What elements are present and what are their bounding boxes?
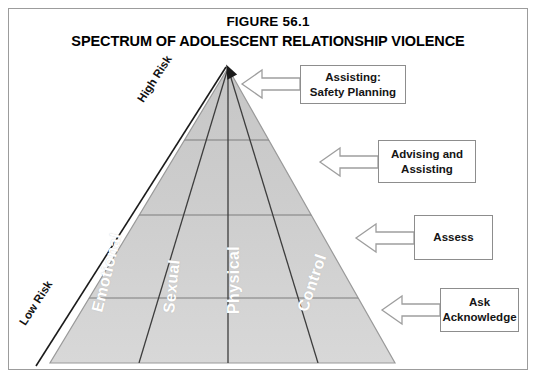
callout-advising-line1: Advising and — [391, 147, 463, 162]
callout-arrow-ask — [382, 296, 440, 324]
callout-advising-line2: Assisting — [391, 162, 463, 177]
callout-arrow-advising — [320, 148, 378, 176]
callout-arrow-assisting — [242, 70, 300, 98]
band-label-physical: Physical — [225, 246, 243, 314]
callout-ask-line1: Ask — [442, 295, 516, 310]
callout-box-assisting: Assisting: Safety Planning — [300, 65, 406, 104]
figure-container: FIGURE 56.1 SPECTRUM OF ADOLESCENT RELAT… — [0, 0, 538, 380]
callout-box-assess: Assess — [414, 215, 493, 260]
callout-assisting-line2: Safety Planning — [310, 85, 396, 100]
callout-box-advising: Advising and Assisting — [378, 140, 476, 183]
callout-ask-line2: Acknowledge — [442, 310, 516, 325]
callout-assess-line1: Assess — [433, 230, 473, 245]
callout-arrow-assess — [356, 224, 414, 252]
callout-box-ask: Ask Acknowledge — [440, 288, 519, 332]
callout-assisting-line1: Assisting: — [310, 70, 396, 85]
